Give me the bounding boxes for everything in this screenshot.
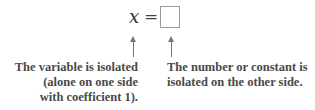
arrow-up-icon (171, 37, 172, 57)
constant-isolated-annotation: The number or constant is isolated on th… (167, 60, 308, 90)
annotation-line: isolated on the other side. (167, 75, 308, 90)
answer-box (160, 6, 180, 28)
equals-sign: = (144, 6, 158, 26)
variable-isolated-annotation: The variable is isolated (alone on one s… (15, 60, 138, 105)
annotation-line: with coefficient 1). (15, 90, 138, 105)
arrow-up-icon (133, 37, 134, 57)
annotation-line: The number or constant is (167, 60, 308, 75)
equation-variable: x (129, 7, 139, 27)
annotation-line: (alone on one side (15, 75, 138, 90)
annotation-line: The variable is isolated (15, 60, 138, 75)
